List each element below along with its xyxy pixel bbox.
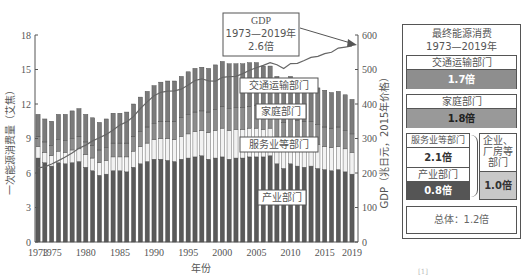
bar-segment [97,163,101,176]
bar-segment [336,147,340,170]
bar-segment [329,93,333,129]
svg-text:1973—2019年: 1973—2019年 [226,27,297,39]
bar-segment [111,143,115,157]
label-household: 家庭部门 [256,104,306,119]
bar-segment [336,91,340,127]
bar-segment [234,129,238,158]
bar-segment [118,157,122,171]
bar-segment [91,171,95,242]
bar-segment [63,164,67,242]
svg-text:服务业等部门: 服务业等部门 [249,138,309,150]
bar-segment [193,132,197,157]
panel-transport: 交通运输部门 1.7倍 [406,55,517,89]
bar-segment [118,143,122,157]
bar-segment [227,130,231,159]
bar-segment [207,112,211,133]
bar-segment [159,139,163,160]
bar-segment [343,130,347,148]
bar-segment [323,90,327,127]
svg-text:500: 500 [362,64,377,75]
panel-total: 总体：1.2倍 [406,206,517,234]
bar-segment [159,159,163,242]
svg-text:1985: 1985 [110,247,130,258]
bar-segment [248,106,252,128]
bar-segment [91,145,95,158]
bar-segment [172,140,176,162]
bar-segment [172,81,176,121]
bar-segment [56,163,60,242]
label-services: 服务业等部门 [240,137,318,152]
bar-segment [309,166,313,242]
svg-text:产业部门: 产业部门 [262,191,302,203]
panel-services: 服务业等部门 2.1倍 [406,133,470,167]
bar-segment [77,109,81,137]
bar-segment [84,155,88,168]
bar-segment [125,143,129,157]
bar-segment [111,171,115,242]
svg-text:2019: 2019 [342,247,362,258]
bar-segment [145,91,149,127]
bar-segment [350,152,354,174]
bar-segment [213,130,217,158]
svg-text:2015: 2015 [315,247,335,258]
bar-segment [220,157,224,242]
bar-segment [248,157,252,242]
svg-text:2005: 2005 [246,247,266,258]
bar-segment [220,128,224,157]
bar-segment [193,157,197,242]
bar-segment [350,99,354,133]
bar-segment [227,64,231,109]
svg-text:交通运输部门: 交通运输部门 [249,79,309,91]
bar-segment [43,119,47,142]
svg-text:100: 100 [362,202,377,213]
svg-text:18: 18 [21,30,31,41]
bar-segment [118,113,122,143]
bar-segment [77,162,81,243]
bar-segment [329,171,333,242]
bar-segment [336,170,340,242]
brace-icon [471,135,478,197]
arrow-head-icon [347,39,357,47]
bar-segment [50,121,54,145]
svg-text:1990: 1990 [144,247,164,258]
bar-segment [70,139,74,151]
bar-segment [323,127,327,147]
y-axis-label: 一次能源消费量（艾焦） [4,85,16,195]
bar-segment [145,143,149,161]
bar-segment [213,158,217,242]
bar-segment [84,167,88,242]
svg-text:300: 300 [362,133,377,144]
bar-segment [91,158,95,171]
bar-segment [43,163,47,242]
bar-segment [179,136,183,159]
bar-segment [125,157,129,172]
svg-text:6: 6 [26,168,31,179]
bar-segment [152,159,156,242]
bar-segment [63,114,67,140]
bar-segment [152,140,156,160]
bar-segment [207,68,211,112]
svg-text:12: 12 [21,99,31,110]
bar-segment [179,76,183,117]
bar-segment [84,114,88,142]
bar-segment [104,148,108,161]
bar-segment [234,107,238,129]
bar-segment [193,112,197,132]
bar-segment [200,156,204,242]
label-transport: 交通运输部门 [240,78,318,93]
panel-enterprise: 企业、 厂房等 部门 1.0倍 [479,133,517,200]
bar-segment [131,104,135,136]
bar-segment [50,145,54,155]
svg-text:9: 9 [26,133,31,144]
bar-segment [118,171,122,242]
bar-segment [70,111,74,139]
bar-segment [323,170,327,242]
bar-segment [172,162,176,243]
bar-segment [145,162,149,243]
bar-segment [323,147,327,170]
bar-segment [350,134,354,152]
bar-segment [77,149,81,162]
svg-text:3: 3 [26,202,31,213]
bar-segment [138,97,142,132]
x-axis-label: 年份 [191,262,211,274]
